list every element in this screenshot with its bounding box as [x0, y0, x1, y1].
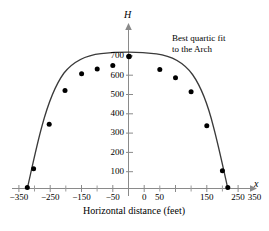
y-tick-label: 300 [98, 127, 124, 137]
x-axis-title: Horizontal distance (feet) [0, 205, 268, 216]
data-point [79, 71, 84, 76]
data-point [47, 122, 52, 127]
x-tick-label: −350 [3, 192, 35, 202]
chart-annotation-line-1: Best quartic fit [172, 33, 226, 44]
data-point [173, 75, 178, 80]
data-point [220, 168, 225, 173]
y-axis-label: H [124, 9, 131, 20]
data-point [31, 166, 36, 171]
y-tick-label: 600 [98, 70, 124, 80]
y-tick-label: 500 [98, 89, 124, 99]
data-point [225, 185, 230, 190]
x-tick-label: 350 [240, 192, 269, 202]
data-point [25, 185, 30, 190]
y-tick-label: 700 [98, 50, 124, 60]
data-point [204, 123, 209, 128]
x-tick-label: −50 [99, 192, 127, 202]
data-point [126, 54, 132, 60]
x-tick-label: −250 [34, 192, 66, 202]
x-tick-label: 150 [192, 192, 222, 202]
chart-annotation: Best quartic fit to the Arch [172, 33, 226, 55]
chart-annotation-line-2: to the Arch [172, 44, 226, 55]
data-point [157, 67, 162, 72]
x-tick-label: −150 [66, 192, 98, 202]
y-tick-label: 200 [98, 147, 124, 157]
data-point [63, 88, 68, 93]
y-tick-label: 100 [98, 166, 124, 176]
data-point [189, 89, 194, 94]
data-point [110, 63, 115, 68]
y-tick-label: 400 [98, 108, 124, 118]
x-axis-symbol-label: x [254, 178, 258, 189]
x-tick-label: 50 [148, 192, 172, 202]
